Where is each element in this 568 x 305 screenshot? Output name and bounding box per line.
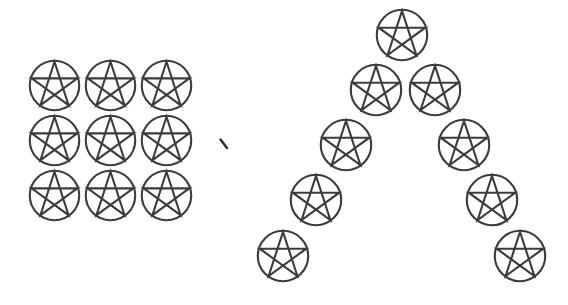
pentacle-canvas <box>0 0 568 305</box>
pentacle-row5-left-icon <box>257 230 309 282</box>
pentacle-r1c2-icon <box>85 60 136 111</box>
pentacle-r2c3-icon <box>141 115 192 166</box>
pentacle-r2c1-icon <box>29 115 80 166</box>
pentacle-row2-left-icon <box>350 64 402 116</box>
pentacle-r1c1-icon <box>29 60 80 111</box>
pentacle-r3c3-icon <box>141 170 192 221</box>
pentacle-r3c1-icon <box>29 170 80 221</box>
pentacle-row4-right-icon <box>466 174 518 226</box>
pentacle-apex-icon <box>376 9 428 61</box>
pentacle-row5-right-icon <box>494 230 546 282</box>
pentacle-r2c2-icon <box>85 115 136 166</box>
pentacle-r1c3-icon <box>141 60 192 111</box>
pentacle-row3-right-icon <box>438 119 490 171</box>
pentacle-row4-left-icon <box>290 174 342 226</box>
pentacle-row3-left-icon <box>320 119 372 171</box>
pentacle-row2-right-icon <box>409 64 461 116</box>
comma-tick-mark <box>220 139 228 149</box>
pentacle-r3c2-icon <box>85 170 136 221</box>
